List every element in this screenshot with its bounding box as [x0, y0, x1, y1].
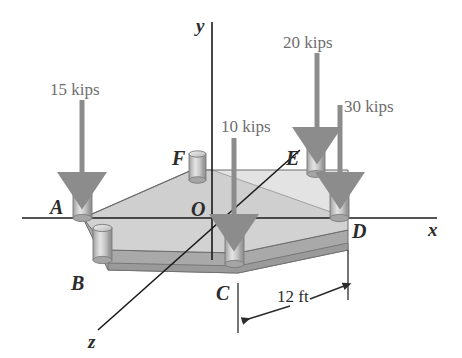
- point-label-b: B: [70, 272, 84, 294]
- dimension-arrow-left: [242, 306, 290, 321]
- point-label-f: F: [171, 147, 186, 169]
- column-d: [330, 184, 349, 221]
- plate-slab: [83, 170, 348, 273]
- load-label-15-kips: 15 kips: [50, 80, 100, 99]
- dimension-arrow-right: [310, 286, 344, 299]
- figure-canvas: y x z O A B C D E F 15 kips 10 kips 20 k…: [0, 0, 462, 358]
- plate-top-rear: [83, 170, 348, 218]
- dimension-label-12-ft: 12 ft: [277, 287, 309, 306]
- column-b: [93, 224, 112, 263]
- point-label-a: A: [48, 196, 63, 218]
- column-c: [225, 228, 244, 267]
- axis-label-x: x: [427, 219, 438, 240]
- statics-figure: y x z O A B C D E F 15 kips 10 kips 20 k…: [0, 0, 462, 358]
- axis-label-z: z: [87, 331, 96, 352]
- point-label-d: D: [351, 220, 366, 242]
- point-label-e: E: [285, 147, 299, 169]
- column-e: [307, 143, 325, 178]
- column-a: [73, 184, 92, 221]
- origin-label: O: [191, 198, 205, 220]
- point-label-c: C: [216, 282, 230, 304]
- load-label-10-kips: 10 kips: [221, 117, 271, 136]
- axis-label-y: y: [194, 15, 205, 36]
- load-label-20-kips: 20 kips: [283, 33, 333, 52]
- column-f: [189, 151, 206, 183]
- load-label-30-kips: 30 kips: [344, 97, 394, 116]
